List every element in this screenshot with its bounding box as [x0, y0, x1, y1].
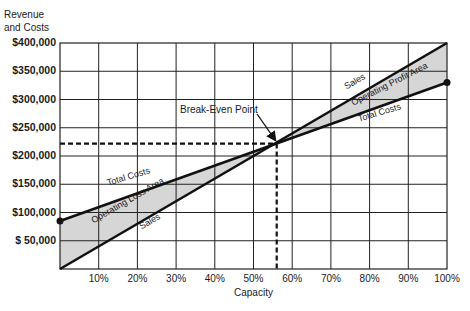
y-tick-label: $ 50,000: [0, 234, 56, 246]
y-tick-label: $350,000: [0, 64, 56, 76]
y-axis-title-line1: Revenue: [4, 8, 49, 21]
y-axis-title: Revenue and Costs: [4, 8, 49, 34]
y-tick-label: $150,000: [0, 177, 56, 189]
total-costs-end-dot: [444, 79, 451, 86]
x-axis-title: Capacity: [234, 287, 273, 298]
y-tick-label: $200,000: [0, 149, 56, 161]
x-tick-label: 50%: [234, 273, 274, 284]
y-tick-label: $250,000: [0, 121, 56, 133]
y-axis-title-line2: and Costs: [4, 21, 49, 34]
x-tick-label: 40%: [195, 273, 235, 284]
y-tick-label: $400,000: [0, 36, 56, 48]
x-tick-label: 70%: [311, 273, 351, 284]
x-tick-label: 80%: [350, 273, 390, 284]
x-tick-label: 30%: [156, 273, 196, 284]
x-tick-label: 60%: [272, 273, 312, 284]
x-tick-label: 20%: [117, 273, 157, 284]
break-even-label: Break-Even Point: [180, 104, 258, 115]
y-tick-label: $100,000: [0, 206, 56, 218]
x-tick-label: 100%: [427, 273, 467, 284]
chart-canvas: [0, 0, 470, 311]
fixed-cost-dot: [57, 217, 64, 224]
y-tick-label: $300,000: [0, 93, 56, 105]
x-tick-label: 90%: [388, 273, 428, 284]
x-tick-label: 10%: [79, 273, 119, 284]
